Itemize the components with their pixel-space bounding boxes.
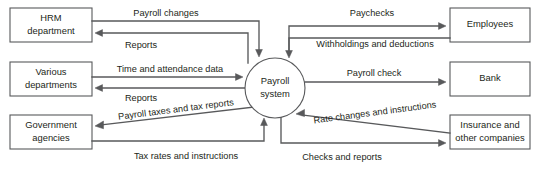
process-label-payroll-system: Payroll bbox=[261, 75, 290, 86]
entity-label-hrm-department-line2: department bbox=[27, 25, 75, 36]
flow-withholdings-and-deductions-arrowhead bbox=[286, 51, 293, 59]
entity-employees[interactable]: Employees bbox=[450, 8, 530, 42]
flow-payroll-check[interactable]: Payroll check bbox=[305, 68, 446, 85]
entity-label-government-agencies: Government bbox=[25, 119, 77, 130]
flow-tax-rates-and-instructions-arrowhead bbox=[261, 118, 268, 126]
flow-reports-departments-arrowhead bbox=[95, 85, 103, 92]
data-flow-diagram: HRMdepartmentVariousdepartmentsGovernmen… bbox=[0, 0, 538, 174]
flow-reports-hrm[interactable]: Reports bbox=[95, 30, 248, 63]
flow-paychecks-arrowhead bbox=[439, 23, 447, 30]
entity-government-agencies[interactable]: Governmentagencies bbox=[10, 115, 92, 149]
flow-time-and-attendance-data-arrowhead bbox=[236, 74, 244, 81]
entity-bank[interactable]: Bank bbox=[450, 62, 530, 96]
flow-payroll-taxes-and-tax-reports[interactable]: Payroll taxes and tax reports bbox=[95, 97, 254, 129]
flow-payroll-changes-line bbox=[92, 21, 259, 53]
entity-label-insurance-and-other-companies-line2: other companies bbox=[455, 132, 525, 143]
process-payroll-system[interactable]: Payrollsystem bbox=[245, 58, 305, 118]
entity-various-departments[interactable]: Variousdepartments bbox=[10, 62, 92, 96]
entity-label-government-agencies-line2: agencies bbox=[32, 132, 70, 143]
entity-insurance-and-other-companies[interactable]: Insurance andother companies bbox=[450, 115, 530, 149]
flow-tax-rates-and-instructions-line bbox=[92, 123, 264, 141]
entity-label-hrm-department: HRM bbox=[40, 12, 62, 23]
flow-checks-and-reports-arrowhead bbox=[439, 140, 447, 147]
flow-reports-departments-label: Reports bbox=[125, 93, 158, 103]
flow-payroll-check-label: Payroll check bbox=[347, 68, 402, 78]
flow-paychecks-label: Paychecks bbox=[350, 8, 395, 18]
flow-payroll-changes-label: Payroll changes bbox=[133, 8, 199, 18]
flow-time-and-attendance-data-label: Time and attendance data bbox=[117, 64, 224, 74]
flow-withholdings-and-deductions[interactable]: Withholdings and deductions bbox=[286, 38, 450, 58]
flow-reports-hrm-label: Reports bbox=[125, 40, 158, 50]
diagram-svg: HRMdepartmentVariousdepartmentsGovernmen… bbox=[0, 0, 538, 174]
flow-payroll-check-arrowhead bbox=[439, 79, 447, 86]
flow-checks-and-reports-label: Checks and reports bbox=[302, 152, 382, 162]
flow-checks-and-reports[interactable]: Checks and reports bbox=[281, 114, 446, 162]
flow-rate-changes-and-instructions-arrowhead bbox=[296, 109, 305, 116]
flow-tax-rates-and-instructions-label: Tax rates and instructions bbox=[134, 151, 239, 161]
flow-time-and-attendance-data[interactable]: Time and attendance data bbox=[92, 64, 243, 80]
flow-rate-changes-and-instructions-label: Rate changes and instructions bbox=[313, 99, 437, 125]
flow-tax-rates-and-instructions[interactable]: Tax rates and instructions bbox=[92, 118, 267, 161]
flow-payroll-taxes-and-tax-reports-arrowhead bbox=[95, 121, 104, 129]
entity-label-various-departments: Various bbox=[35, 66, 66, 77]
entity-label-various-departments-line2: departments bbox=[25, 79, 77, 90]
flow-withholdings-and-deductions-label: Withholdings and deductions bbox=[316, 39, 434, 49]
flow-payroll-changes-arrowhead bbox=[256, 50, 263, 58]
entity-label-employees: Employees bbox=[467, 18, 514, 29]
flow-reports-hrm-arrowhead bbox=[95, 30, 103, 37]
flow-rate-changes-and-instructions[interactable]: Rate changes and instructions bbox=[296, 99, 450, 133]
flow-reports-hrm-line bbox=[100, 33, 248, 63]
entity-label-insurance-and-other-companies: Insurance and bbox=[460, 119, 519, 130]
entity-label-bank: Bank bbox=[479, 72, 501, 83]
entity-hrm-department[interactable]: HRMdepartment bbox=[10, 8, 92, 42]
process-label-payroll-system-line2: system bbox=[260, 88, 290, 99]
